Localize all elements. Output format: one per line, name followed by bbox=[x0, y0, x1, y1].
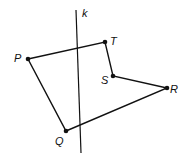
point-r bbox=[165, 86, 170, 91]
point-t bbox=[103, 40, 108, 45]
point-p bbox=[26, 57, 31, 62]
point-s-label: S bbox=[101, 74, 109, 86]
point-q-label: Q bbox=[55, 135, 64, 147]
point-r-label: R bbox=[170, 83, 178, 95]
line-k-label: k bbox=[82, 7, 88, 19]
point-p-label: P bbox=[14, 52, 22, 64]
point-q bbox=[64, 129, 69, 134]
point-t-label: T bbox=[110, 35, 118, 47]
point-s bbox=[111, 74, 116, 79]
polygon-ptsrq bbox=[28, 42, 167, 131]
diagram-canvas: k P T S R Q bbox=[0, 0, 192, 157]
line-k bbox=[76, 10, 81, 153]
